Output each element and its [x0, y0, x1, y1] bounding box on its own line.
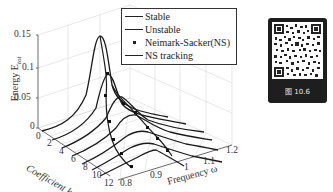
qr-code-icon — [272, 22, 323, 79]
qr-caption: 图 10.6 — [268, 86, 327, 96]
z-axis-label: Energy Etot — [9, 49, 23, 109]
legend-item-stable: Stable — [125, 10, 170, 23]
legend-item-unstable: Unstable — [125, 23, 181, 36]
k-tick-10: 10 — [92, 170, 102, 180]
ns-tracking-line-icon — [125, 55, 143, 56]
legend: Stable Unstable Neimark-Sacker(NS) NS tr… — [121, 8, 237, 65]
w-tick-1.2: 1.2 — [226, 145, 238, 155]
k-tick-8: 8 — [83, 162, 88, 172]
k-tick-0: 0 — [36, 131, 41, 141]
z-tick-0.15: 0.15 — [14, 29, 31, 39]
z-tick-0.1: 0.1 — [22, 62, 34, 72]
stable-line-icon — [125, 16, 143, 17]
legend-item-ns: Neimark-Sacker(NS) — [125, 36, 230, 49]
unstable-line-icon — [125, 29, 143, 30]
w-tick-0.8: 0.8 — [120, 178, 132, 188]
k-tick-12: 12 — [104, 178, 114, 188]
z-tick-0: 0 — [30, 121, 35, 131]
k-tick-2: 2 — [47, 138, 52, 148]
qr-code-card[interactable]: 图 10.6 — [268, 18, 327, 103]
legend-item-ns-tracking: NS tracking — [125, 49, 193, 62]
w-tick-0.9: 0.9 — [150, 170, 162, 180]
k-tick-4: 4 — [59, 146, 64, 156]
k-tick-6: 6 — [71, 154, 76, 164]
ns-point-icon — [133, 41, 136, 44]
